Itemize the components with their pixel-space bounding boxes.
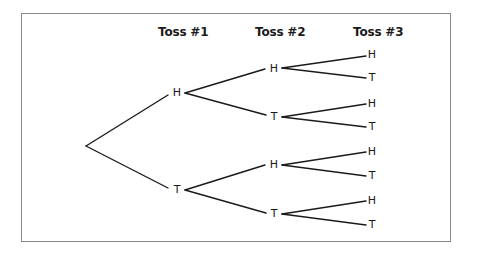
branch-root-T [86,146,168,188]
node-l3-tth: H [367,195,377,207]
node-l1-h: H [172,87,182,99]
branch-H-T [185,93,266,115]
branch-root-H [86,95,168,146]
node-l2-ht: T [269,111,279,123]
node-l3-thh: H [367,146,377,158]
header-toss-1: Toss #1 [158,25,208,39]
node-l3-tht: T [367,170,377,182]
branch-H-H [185,69,265,93]
branch-T-T [185,190,266,213]
header-toss-3: Toss #3 [353,25,403,39]
node-l2-hh: H [269,63,279,75]
node-l3-hht: T [367,72,377,84]
node-l3-htt: T [367,121,377,133]
branch-T-H [185,165,265,190]
node-l3-ttt: T [367,219,377,231]
tree-branches [0,0,477,256]
node-l3-hhh: H [367,49,377,61]
node-l1-t: T [172,184,182,196]
node-l2-tt: T [269,208,279,220]
header-toss-2: Toss #2 [255,25,305,39]
node-l3-hth: H [367,98,377,110]
node-l2-th: H [269,159,279,171]
